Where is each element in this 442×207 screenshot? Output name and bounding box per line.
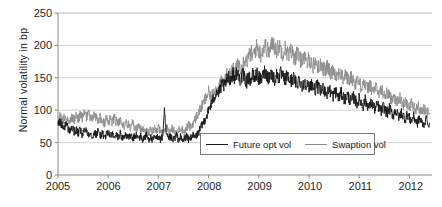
volatility-chart: Normal volatility in bp 250 200 150 100 …	[0, 0, 442, 207]
legend-line-swaption-vol	[305, 144, 327, 145]
chart-legend: Future opt vol Swaption vol	[200, 133, 375, 155]
legend-label-swaption-vol: Swaption vol	[332, 139, 386, 150]
legend-line-future-opt-vol	[206, 144, 228, 145]
plot-area	[0, 0, 442, 207]
legend-label-future-opt-vol: Future opt vol	[233, 139, 291, 150]
